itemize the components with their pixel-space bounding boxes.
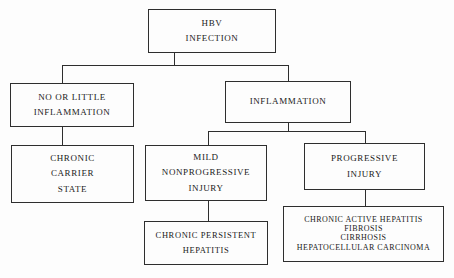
node-chronic-carrier-state-line-3: STATE xyxy=(58,185,87,194)
edge-mild-to-persistent xyxy=(208,200,209,222)
node-mild-nonprogressive-injury-line-1: MILD xyxy=(193,153,218,162)
node-hbv-infection-line-2: INFECTION xyxy=(186,34,239,43)
node-no-or-little-inflammation-line-2: INFLAMMATION xyxy=(34,108,111,117)
node-no-or-little-inflammation[interactable]: NO OR LITTLE INFLAMMATION xyxy=(10,83,134,127)
node-chronic-persistent-hepatitis-line-1: CHRONIC PERSISTENT xyxy=(156,231,257,240)
edge-no-inflammation-to-carrier xyxy=(62,126,63,146)
node-chronic-carrier-state-line-1: CHRONIC xyxy=(50,154,95,163)
node-chronic-carrier-state-line-2: CARRIER xyxy=(51,169,94,178)
edge-root-stem xyxy=(174,52,175,66)
edge-inflammation-bus xyxy=(208,131,366,132)
node-progressive-outcomes-line-2: FIBROSIS xyxy=(344,225,383,233)
edge-inflammation-to-mild xyxy=(208,131,209,146)
flowchart-canvas: HBV INFECTION NO OR LITTLE INFLAMMATION … xyxy=(0,0,454,278)
edge-root-to-inflammation xyxy=(288,65,289,81)
node-hbv-infection-line-1: HBV xyxy=(202,19,223,28)
node-progressive-injury-line-2: INJURY xyxy=(347,170,382,179)
node-mild-nonprogressive-injury-line-2: NONPROGRESSIVE xyxy=(162,168,250,177)
node-progressive-outcomes[interactable]: CHRONIC ACTIVE HEPATITIS FIBROSIS CIRRHO… xyxy=(283,206,444,262)
edge-root-to-no-inflammation xyxy=(62,65,63,83)
node-mild-nonprogressive-injury[interactable]: MILD NONPROGRESSIVE INJURY xyxy=(145,145,267,201)
edge-progressive-to-outcomes xyxy=(365,190,366,207)
node-mild-nonprogressive-injury-line-3: INJURY xyxy=(188,184,223,193)
node-progressive-outcomes-line-3: CIRRHOSIS xyxy=(341,234,387,242)
node-progressive-outcomes-line-1: CHRONIC ACTIVE HEPATITIS xyxy=(304,216,423,224)
node-progressive-injury[interactable]: PROGRESSIVE INJURY xyxy=(304,143,425,190)
node-inflammation[interactable]: INFLAMMATION xyxy=(225,81,351,123)
node-inflammation-line-1: INFLAMMATION xyxy=(250,97,327,106)
node-chronic-carrier-state[interactable]: CHRONIC CARRIER STATE xyxy=(11,145,134,203)
node-chronic-persistent-hepatitis-line-2: HEPATITIS xyxy=(183,246,230,255)
edge-root-bus xyxy=(62,65,289,66)
node-progressive-injury-line-1: PROGRESSIVE xyxy=(331,154,398,163)
node-hbv-infection[interactable]: HBV INFECTION xyxy=(148,9,276,53)
node-progressive-outcomes-line-4: HEPATOCELLULAR CARCINOMA xyxy=(297,244,430,252)
node-no-or-little-inflammation-line-1: NO OR LITTLE xyxy=(38,93,106,102)
node-chronic-persistent-hepatitis[interactable]: CHRONIC PERSISTENT HEPATITIS xyxy=(144,221,268,265)
